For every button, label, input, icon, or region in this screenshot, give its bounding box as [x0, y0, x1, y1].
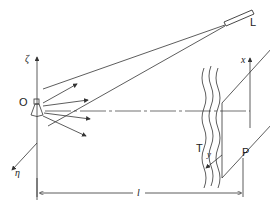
x-label: x: [240, 54, 246, 65]
turbulence-label: T: [196, 142, 203, 154]
turbulence-waves: [202, 66, 220, 188]
origin-label: O: [19, 96, 28, 108]
optical-setup-diagram: O L ζ η x y T P l: [0, 0, 270, 204]
y-label: y: [206, 149, 211, 159]
laser-label: L: [250, 16, 256, 28]
observation-plane: [222, 48, 270, 178]
distance-label: l: [137, 187, 140, 198]
plane-label: P: [242, 146, 249, 158]
scattered-rays: [43, 84, 90, 136]
zeta-label: ζ: [25, 53, 30, 65]
distance-dimension: [37, 158, 243, 197]
eta-label: η: [15, 167, 20, 178]
eta-axis: [12, 143, 37, 170]
